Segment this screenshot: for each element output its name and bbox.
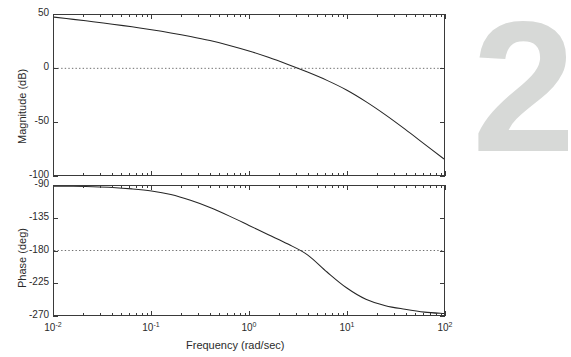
xtick-minor-pha (227, 185, 228, 188)
phase-axes (53, 185, 445, 316)
xtick-minor-mag-bottom (234, 173, 235, 176)
xtick-minor-pha-bottom (240, 313, 241, 316)
xtick-minor-pha-bottom (181, 313, 182, 316)
xtick-minor-pha (198, 185, 199, 188)
xtick-minor-mag-bottom (219, 173, 220, 176)
xtick-minor-mag-bottom (430, 173, 431, 176)
xtick-minor-pha-bottom (129, 313, 130, 316)
xtick-minor-pha (142, 185, 143, 188)
ytick-magnitude-right--100 (440, 176, 445, 177)
xtick-minor-pha (317, 185, 318, 188)
xtick-minor-pha-bottom (219, 313, 220, 316)
xtick-minor-mag (227, 14, 228, 17)
xtick-minor-mag (83, 14, 84, 17)
xtick-label-1e1: 101 (331, 321, 363, 333)
xtick-minor-pha (234, 185, 235, 188)
xtick-major-pha-bottom-1e-1 (151, 311, 152, 316)
xtick-minor-mag (430, 14, 431, 17)
ytick-phase--270 (53, 316, 58, 317)
magnitude-curve (54, 17, 444, 159)
xtick-minor-mag-bottom (100, 173, 101, 176)
xtick-minor-mag (142, 14, 143, 17)
xtick-minor-pha-bottom (317, 313, 318, 316)
xtick-minor-pha-bottom (332, 313, 333, 316)
xtick-minor-mag-bottom (308, 173, 309, 176)
phase-plot-area (54, 186, 444, 315)
xtick-minor-mag-bottom (245, 173, 246, 176)
xtick-minor-pha-bottom (325, 313, 326, 316)
xtick-minor-mag (147, 14, 148, 17)
xtick-minor-mag (129, 14, 130, 17)
xtick-minor-mag (325, 14, 326, 17)
xtick-minor-pha (240, 185, 241, 188)
xtick-minor-mag (121, 14, 122, 17)
xtick-minor-pha-bottom (227, 313, 228, 316)
xtick-minor-pha (121, 185, 122, 188)
xtick-minor-pha (430, 185, 431, 188)
xtick-minor-mag-bottom (279, 173, 280, 176)
xtick-minor-pha (279, 185, 280, 188)
xtick-minor-mag-bottom (112, 173, 113, 176)
xtick-minor-pha (436, 185, 437, 188)
ytick-magnitude--50 (53, 122, 58, 123)
xtick-label-1e0: 100 (233, 321, 265, 333)
xtick-minor-mag-bottom (325, 173, 326, 176)
ytick-magnitude-50 (53, 14, 58, 15)
xtick-major-mag-bottom-1e-1 (151, 171, 152, 176)
xtick-major-pha-1e2 (445, 185, 446, 190)
xtick-minor-pha (308, 185, 309, 188)
phase-curve (54, 186, 444, 313)
ytick-phase-right--135 (440, 218, 445, 219)
xtick-minor-mag-bottom (129, 173, 130, 176)
xtick-major-mag-1e2 (445, 14, 446, 19)
xtick-major-pha-1e0 (249, 185, 250, 190)
xtick-minor-mag (338, 14, 339, 17)
ytick-phase--90 (53, 185, 58, 186)
ytick-label-phase--135: -135 (9, 211, 49, 222)
xtick-minor-mag (406, 14, 407, 17)
magnitude-svg (54, 15, 444, 175)
xtick-minor-pha (147, 185, 148, 188)
xtick-minor-pha (100, 185, 101, 188)
xtick-minor-pha-bottom (338, 313, 339, 316)
xtick-minor-mag (279, 14, 280, 17)
ytick-phase-right--180 (440, 251, 445, 252)
xtick-minor-pha-bottom (430, 313, 431, 316)
xtick-minor-mag-bottom (142, 173, 143, 176)
xtick-minor-pha-bottom (142, 313, 143, 316)
xtick-minor-pha-bottom (198, 313, 199, 316)
xtick-minor-mag (436, 14, 437, 17)
xtick-minor-pha-bottom (234, 313, 235, 316)
xtick-minor-pha-bottom (83, 313, 84, 316)
xtick-minor-pha-bottom (279, 313, 280, 316)
frequency-axis-title: Frequency (rad/sec) (186, 339, 284, 351)
xtick-minor-mag (210, 14, 211, 17)
xtick-major-mag-bottom-1e1 (347, 171, 348, 176)
xtick-minor-pha (219, 185, 220, 188)
xtick-minor-pha-bottom (121, 313, 122, 316)
xtick-minor-pha-bottom (245, 313, 246, 316)
phase-svg (54, 186, 444, 315)
xtick-minor-mag (317, 14, 318, 17)
xtick-minor-mag-bottom (147, 173, 148, 176)
xtick-minor-mag-bottom (436, 173, 437, 176)
xtick-minor-mag-bottom (332, 173, 333, 176)
page-number-watermark: 2 (472, 0, 571, 180)
xtick-minor-pha (129, 185, 130, 188)
xtick-minor-mag (219, 14, 220, 17)
xtick-minor-mag (423, 14, 424, 17)
xtick-minor-pha-bottom (136, 313, 137, 316)
xtick-major-mag-bottom-1e2 (445, 171, 446, 176)
ytick-label-magnitude--50: -50 (9, 115, 49, 126)
xtick-minor-pha (377, 185, 378, 188)
xtick-minor-pha (415, 185, 416, 188)
xtick-label-1e-2: 10-2 (37, 321, 69, 333)
xtick-minor-mag (377, 14, 378, 17)
xtick-minor-pha (423, 185, 424, 188)
xtick-minor-pha (343, 185, 344, 188)
xtick-minor-pha (338, 185, 339, 188)
xtick-minor-mag (245, 14, 246, 17)
xtick-minor-pha-bottom (377, 313, 378, 316)
xtick-major-mag-1e-1 (151, 14, 152, 19)
xtick-minor-pha (210, 185, 211, 188)
